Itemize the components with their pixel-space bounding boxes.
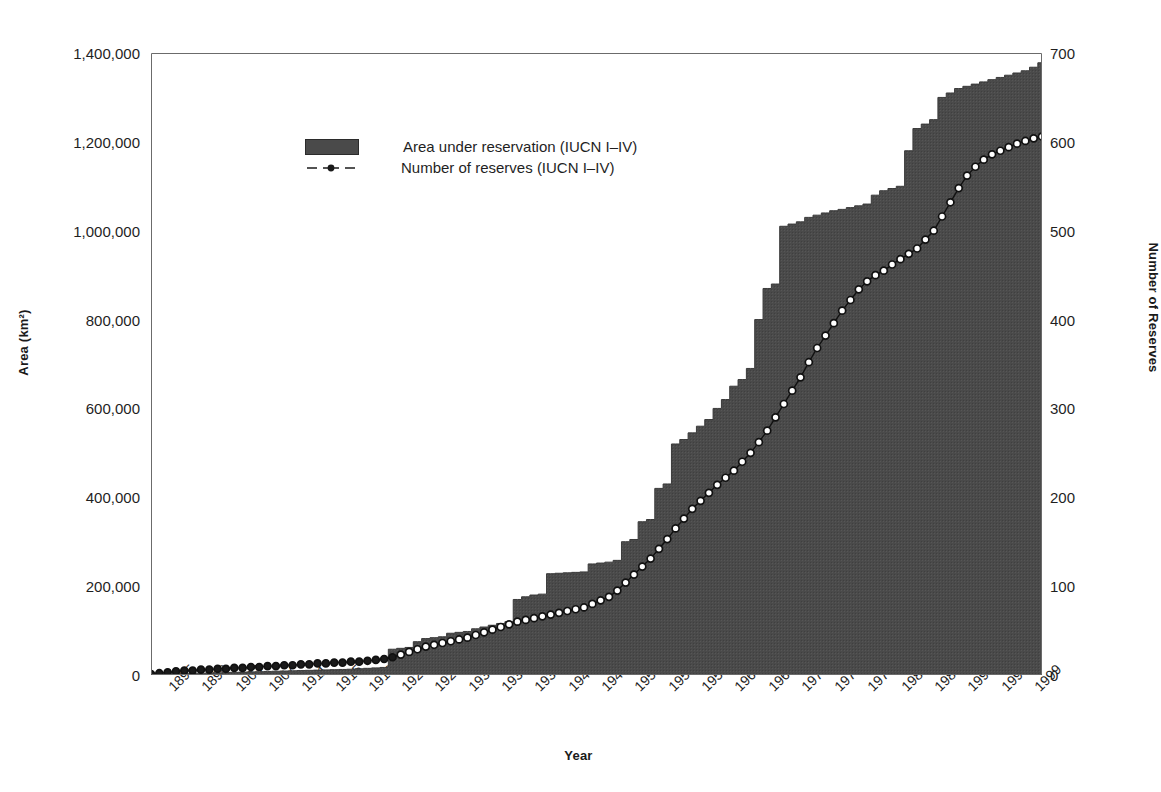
x-tick-label: 1911: [298, 683, 309, 694]
data-point-marker: [381, 656, 388, 663]
x-tick-label: 1915: [332, 683, 343, 694]
data-point-marker: [872, 272, 879, 279]
data-point-marker: [797, 374, 804, 381]
data-point-marker: [314, 660, 321, 667]
x-tick-label: 1959: [698, 683, 709, 694]
area-swatch-icon: [305, 139, 359, 155]
data-point-marker: [347, 658, 354, 665]
x-tick-label: 1967: [765, 683, 776, 694]
data-point-marker: [339, 659, 346, 666]
data-point-marker: [514, 618, 521, 625]
data-point-marker: [522, 616, 529, 623]
data-point-marker: [972, 163, 979, 170]
data-point-marker: [955, 185, 962, 192]
x-tick-label: 1987: [931, 683, 942, 694]
data-point-marker: [589, 600, 596, 607]
data-point-marker: [1014, 140, 1021, 147]
line-marker-icon: [305, 161, 357, 175]
data-point-marker: [714, 481, 721, 488]
data-point-marker: [356, 658, 363, 665]
data-point-marker: [364, 657, 371, 664]
x-tick-label: 1899: [198, 683, 209, 694]
data-point-marker: [814, 345, 821, 352]
data-point-marker: [780, 400, 787, 407]
x-tick-label: 1975: [831, 683, 842, 694]
data-point-marker: [422, 643, 429, 650]
data-point-marker: [264, 663, 271, 670]
data-point-marker: [472, 632, 479, 639]
data-point-marker: [614, 587, 621, 594]
data-point-marker: [397, 651, 404, 658]
data-point-marker: [322, 660, 329, 667]
x-tick-label: 1895: [165, 683, 176, 694]
data-point-marker: [272, 663, 279, 670]
x-tick-label: 1979: [864, 683, 875, 694]
data-point-marker: [297, 661, 304, 668]
x-tick-label: 1935: [498, 683, 509, 694]
data-point-marker: [722, 474, 729, 481]
data-point-marker: [547, 611, 554, 618]
x-tick-label: 1995: [998, 683, 1009, 694]
data-point-marker: [281, 662, 288, 669]
x-tick-label: 1991: [964, 683, 975, 694]
data-point-marker: [697, 497, 704, 504]
data-point-marker: [1022, 137, 1029, 144]
x-tick-label: 1907: [265, 683, 276, 694]
data-point-marker: [489, 626, 496, 633]
data-point-marker: [730, 467, 737, 474]
x-tick-label: 1927: [431, 683, 442, 694]
data-point-marker: [989, 151, 996, 158]
data-point-marker: [830, 320, 837, 327]
data-point-marker: [930, 227, 937, 234]
data-point-marker: [497, 624, 504, 631]
data-point-marker: [805, 359, 812, 366]
data-point-marker: [506, 621, 513, 628]
data-point-marker: [456, 636, 463, 643]
data-point-marker: [247, 664, 254, 671]
data-point-marker: [705, 489, 712, 496]
data-point-marker: [414, 646, 421, 653]
data-point-marker: [630, 571, 637, 578]
data-point-marker: [539, 613, 546, 620]
data-point-marker: [680, 515, 687, 522]
data-point-marker: [172, 668, 179, 675]
data-point-marker: [639, 563, 646, 570]
data-point-marker: [789, 387, 796, 394]
data-point-marker: [372, 656, 379, 663]
data-point-marker: [755, 439, 762, 446]
data-point-marker: [980, 156, 987, 163]
data-point-marker: [905, 250, 912, 257]
data-point-marker: [664, 536, 671, 543]
data-point-marker: [880, 267, 887, 274]
data-point-marker: [331, 659, 338, 666]
data-point-marker: [1030, 135, 1037, 142]
data-point-marker: [572, 606, 579, 613]
data-point-marker: [822, 332, 829, 339]
data-point-marker: [764, 427, 771, 434]
data-point-marker: [197, 666, 204, 673]
data-point-marker: [597, 597, 604, 604]
x-tick-label: 1923: [398, 683, 409, 694]
data-point-marker: [1005, 144, 1012, 151]
data-point-marker: [772, 414, 779, 421]
x-tick-label: 1931: [465, 683, 476, 694]
data-point-marker: [431, 641, 438, 648]
data-point-marker: [447, 638, 454, 645]
legend-item-area: Area under reservation (IUCN I–IV): [305, 136, 637, 157]
x-tick-label: 1947: [598, 683, 609, 694]
data-point-marker: [864, 278, 871, 285]
data-point-marker: [672, 525, 679, 532]
data-point-marker: [747, 449, 754, 456]
x-tick-label: 1983: [898, 683, 909, 694]
x-tick-label: 1951: [631, 683, 642, 694]
data-point-marker: [239, 664, 246, 671]
data-point-marker: [655, 545, 662, 552]
data-point-marker: [689, 505, 696, 512]
data-point-marker: [581, 604, 588, 611]
data-point-marker: [947, 199, 954, 206]
legend-label-area: Area under reservation (IUCN I–IV): [403, 138, 637, 155]
data-point-marker: [897, 256, 904, 263]
data-point-marker: [964, 172, 971, 179]
data-point-marker: [556, 609, 563, 616]
x-tick-label: 1939: [531, 683, 542, 694]
